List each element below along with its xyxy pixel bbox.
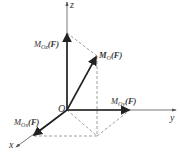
- resultant-vector: [67, 57, 96, 110]
- my-label: MOy(F): [110, 96, 137, 107]
- mx-label: MOx(F): [13, 117, 40, 128]
- resultant-label: MO(F): [98, 50, 122, 61]
- origin-label: O: [58, 103, 65, 114]
- x-axis-label: x: [8, 139, 14, 150]
- y-axis-label: y: [169, 112, 175, 123]
- moment-diagram: z y x O MOz(F) MO(F) MOy(F) MOx(F): [0, 0, 180, 159]
- z-axis-label: z: [69, 0, 74, 10]
- axes: [16, 2, 176, 147]
- mz-label: MOz(F): [33, 39, 59, 50]
